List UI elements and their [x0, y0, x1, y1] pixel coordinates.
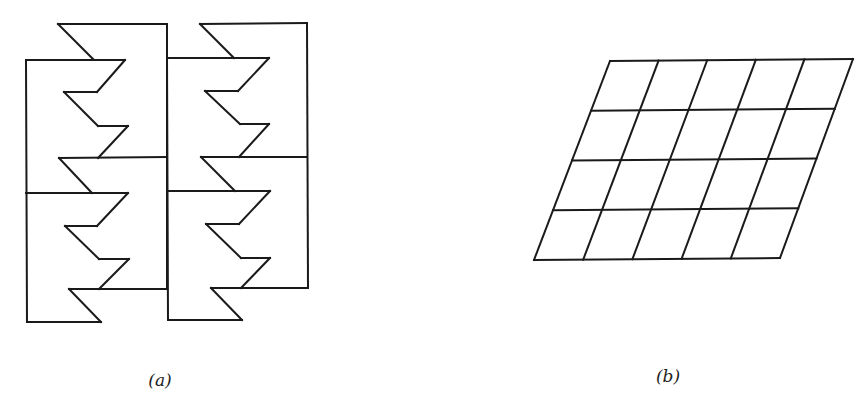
tile-edge: [206, 224, 241, 258]
panel-b-label: (b): [656, 366, 680, 386]
tile-edge: [97, 60, 125, 92]
tile-edge: [26, 60, 27, 322]
tile-edge: [97, 193, 128, 226]
tile-edge: [58, 24, 93, 59]
tile-edge: [65, 226, 99, 259]
grid-row-line: [610, 59, 853, 61]
tile-edge: [98, 126, 128, 158]
tile-edge: [69, 289, 101, 322]
tile-edge: [64, 92, 98, 126]
grid-row-line: [553, 208, 798, 210]
tile-edge: [167, 58, 168, 320]
tile-edge: [99, 259, 129, 289]
grid-row-line: [591, 109, 835, 111]
grid-row-line: [534, 258, 780, 260]
grid-row-line: [572, 159, 817, 161]
tile-edge: [239, 124, 269, 157]
tile-edge: [238, 58, 269, 91]
panel-a-label: (a): [148, 370, 171, 390]
tile-edge: [307, 23, 308, 288]
tile-edge: [241, 258, 270, 288]
tile-edge: [59, 158, 92, 193]
tile-edge: [200, 23, 307, 24]
tile-edge: [59, 157, 167, 158]
tile-edge: [201, 157, 235, 191]
figure-canvas: [0, 0, 863, 408]
tile-edge: [205, 91, 240, 124]
tile-edge: [239, 191, 270, 224]
tile-edge: [200, 24, 234, 58]
panel-a-zigzag-tessellation: [26, 23, 308, 322]
tile-edge: [211, 288, 242, 320]
panel-b-parallelogram-grid: [534, 59, 853, 260]
